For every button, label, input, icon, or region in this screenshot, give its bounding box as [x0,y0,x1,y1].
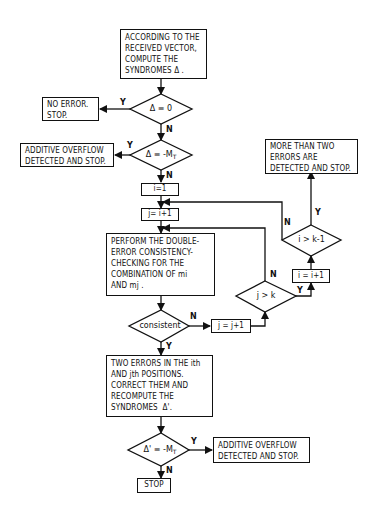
decision-overflow-subscript: T [173,153,177,160]
decision-consistent-label: consistent [131,321,189,330]
inc-i-box: i = i+1 [292,269,330,283]
label-recheck-no: N [166,466,173,475]
label-jk-no: N [270,270,277,279]
decision-recheck-subscript: T [173,448,177,455]
flowchart: ACCORDING TO THE RECEIVED VECTOR, COMPUT… [0,0,379,517]
start-box: ACCORDING TO THE RECEIVED VECTOR, COMPUT… [120,29,207,79]
decision-overflow-text: Δ ≡ -M [146,150,173,159]
decision-overflow-label: Δ ≡ -MT [131,150,191,160]
correct-box: TWO ERRORS IN THE ith AND jth POSITIONS.… [106,355,213,417]
label-consistent-no: N [190,312,197,321]
stop-box: STOP [137,478,171,493]
label-jk-yes: Y [297,286,303,295]
decision-recheck-label: Δ' ≡ -MT [130,445,190,455]
overflow-box-1: ADDITIVE OVERFLOW DETECTED AND STOP. [20,143,114,167]
inc-j-box: j = j+1 [211,319,251,333]
decision-recheck-text: Δ' ≡ -M [144,445,173,454]
no-error-box: NO ERROR. STOP. [42,97,99,121]
decision-i-gt-k1-label: i > k-1 [282,235,341,244]
label-overflow-no: N [166,171,173,180]
check-box: PERFORM THE DOUBLE- ERROR CONSISTENCY- C… [106,233,215,296]
overflow-box-2: ADDITIVE OVERFLOW DETECTED AND STOP. [213,437,310,463]
decision-zero-label: Δ ≡ 0 [131,104,191,113]
label-consistent-yes: Y [166,342,172,351]
label-zero-yes: Y [120,98,126,107]
label-ik-yes: Y [315,208,321,217]
decision-j-gt-k-label: j > k [236,291,296,300]
label-overflow-yes: Y [127,141,133,150]
init-i-box: i=1 [141,183,179,196]
label-zero-no: N [166,125,173,134]
label-ik-no: N [284,218,291,227]
more-errors-box: MORE THAN TWO ERRORS ARE DETECTED AND ST… [265,139,358,174]
label-recheck-yes: Y [191,437,197,446]
init-j-box: j= i+1 [141,208,179,221]
